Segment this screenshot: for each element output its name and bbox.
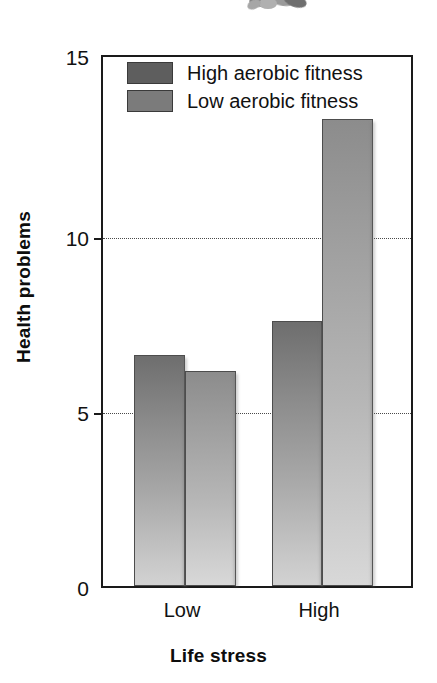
plot-area: High aerobic fitness Low aerobic fitness <box>101 55 413 588</box>
bar-high-stress-low-fitness[interactable] <box>322 119 373 586</box>
bar-high-stress-high-fitness[interactable] <box>272 321 322 586</box>
legend-item-high-aerobic-fitness[interactable]: High aerobic fitness <box>127 62 363 84</box>
bar-low-stress-low-fitness[interactable] <box>185 371 236 586</box>
y-tick-mark-5 <box>94 413 103 415</box>
legend: High aerobic fitness Low aerobic fitness <box>127 62 363 112</box>
bar-chart: 15 10 5 0 Health problems High aerobic f… <box>0 0 437 683</box>
y-axis-title: Health problems <box>13 167 35 407</box>
y-tick-label-15: 15 <box>66 47 89 68</box>
y-tick-label-0: 0 <box>77 578 89 599</box>
legend-label: Low aerobic fitness <box>187 91 358 111</box>
y-tick-label-10: 10 <box>66 228 89 249</box>
y-tick-mark-10 <box>94 238 103 240</box>
x-tick-label-low: Low <box>122 600 242 620</box>
bar-low-stress-high-fitness[interactable] <box>134 355 185 586</box>
x-axis-title: Life stress <box>0 645 437 667</box>
legend-label: High aerobic fitness <box>187 63 363 83</box>
x-tick-label-high: High <box>259 600 379 620</box>
legend-swatch-icon <box>127 62 173 84</box>
y-tick-label-5: 5 <box>77 403 89 424</box>
legend-swatch-icon <box>127 90 173 112</box>
legend-item-low-aerobic-fitness[interactable]: Low aerobic fitness <box>127 90 363 112</box>
